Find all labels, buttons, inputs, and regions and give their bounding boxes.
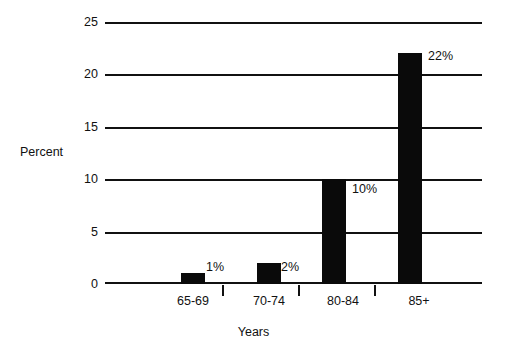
y-tick-label-20: 20 xyxy=(64,68,98,80)
bar-65-69 xyxy=(181,273,205,284)
value-label-65-69: 1% xyxy=(206,261,224,274)
value-label-70-74: 2% xyxy=(281,261,299,274)
bar-85-plus xyxy=(398,53,422,284)
value-label-85-plus: 22% xyxy=(428,50,453,63)
y-tick-label-10: 10 xyxy=(64,173,98,185)
y-axis: 25 20 15 10 5 0 xyxy=(52,0,98,361)
x-tick-label-70-74: 70-74 xyxy=(231,294,307,309)
plot-area xyxy=(105,22,482,284)
gridline-20 xyxy=(105,74,482,76)
gridline-15 xyxy=(105,127,482,129)
x-axis-title: Years xyxy=(0,325,507,339)
x-tick-label-85-plus: 85+ xyxy=(381,294,457,309)
bar-80-84 xyxy=(322,179,346,284)
gridline-10 xyxy=(105,179,482,181)
gridline-25 xyxy=(105,22,482,24)
y-axis-title: Percent xyxy=(20,145,63,159)
x-axis-labels: 65-69 70-74 80-84 85+ xyxy=(105,294,482,314)
bar-chart: 25 20 15 10 5 0 1% 2% 10% 22% 65-69 70-7… xyxy=(0,0,507,361)
gridline-5 xyxy=(105,232,482,234)
x-tick-label-65-69: 65-69 xyxy=(155,294,231,309)
y-tick-label-0: 0 xyxy=(64,278,98,290)
x-tick-label-80-84: 80-84 xyxy=(305,294,381,309)
y-tick-label-25: 25 xyxy=(64,16,98,28)
y-tick-label-15: 15 xyxy=(64,121,98,133)
y-tick-label-5: 5 xyxy=(64,226,98,238)
bar-70-74 xyxy=(257,263,281,284)
value-label-80-84: 10% xyxy=(352,183,377,196)
